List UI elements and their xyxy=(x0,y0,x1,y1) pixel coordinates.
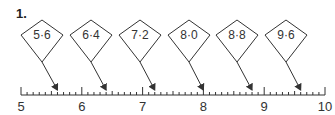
kite-label: 9·6 xyxy=(277,28,295,42)
tick-label: 5 xyxy=(17,99,24,114)
kite-string-arrow xyxy=(189,62,203,90)
kite-string-arrow xyxy=(140,62,155,90)
tick-label: 7 xyxy=(139,99,146,114)
kite-label: 5·6 xyxy=(33,28,51,42)
kite-string-arrow xyxy=(42,62,57,90)
kite-string-arrow xyxy=(91,62,106,90)
tick-label: 9 xyxy=(261,99,268,114)
kite-label: 6·4 xyxy=(82,28,100,42)
number-line-diagram: 56789105·66·47·28·08·89·6 xyxy=(0,0,335,115)
tick-label: 10 xyxy=(318,99,332,114)
tick-label: 8 xyxy=(200,99,207,114)
kite-label: 8·0 xyxy=(180,28,198,42)
kite-label: 8·8 xyxy=(228,28,246,42)
tick-label: 6 xyxy=(78,99,85,114)
kite-string-arrow xyxy=(286,62,301,90)
kite-string-arrow xyxy=(237,62,252,90)
kite-label: 7·2 xyxy=(131,28,149,42)
number-line-exercise: 1. 56789105·66·47·28·08·89·6 xyxy=(0,0,335,115)
